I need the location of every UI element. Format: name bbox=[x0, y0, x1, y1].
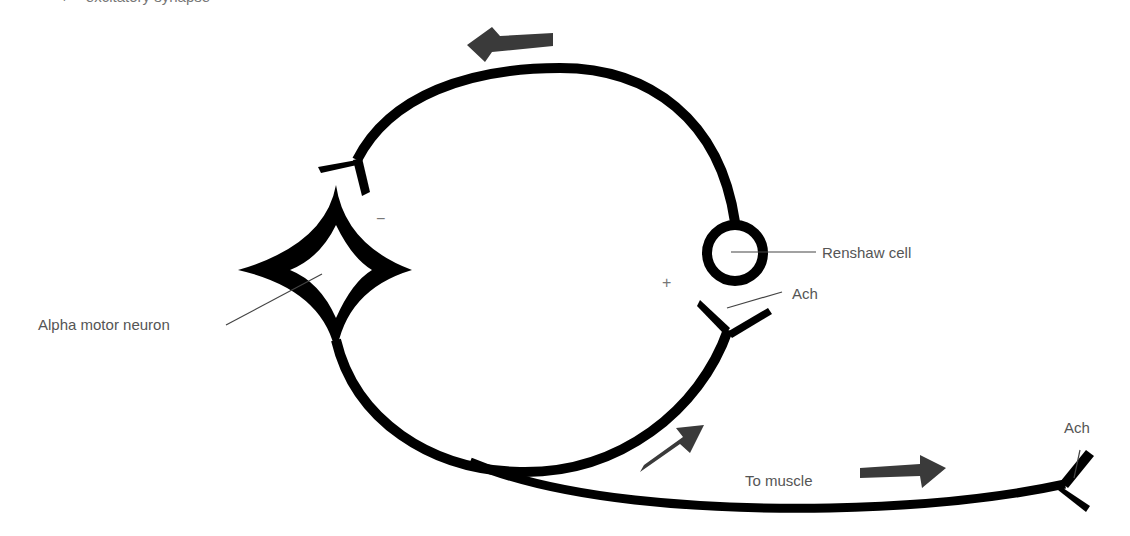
label-ach-muscle: Ach bbox=[1064, 419, 1090, 436]
recurrent-axon-top bbox=[357, 68, 735, 222]
label-alpha-motor-neuron: Alpha motor neuron bbox=[38, 316, 170, 333]
inhibitory-synapse-terminal bbox=[318, 158, 370, 196]
excitatory-plus-sign: + bbox=[662, 274, 671, 292]
leader-ach-renshaw bbox=[727, 292, 782, 308]
label-renshaw-cell: Renshaw cell bbox=[822, 244, 911, 261]
label-to-muscle: To muscle bbox=[745, 472, 813, 489]
muscle-synapse-terminal bbox=[1058, 450, 1094, 512]
arrow-top-left bbox=[467, 27, 553, 62]
label-ach-renshaw: Ach bbox=[792, 285, 818, 302]
renshaw-cell-body bbox=[707, 225, 763, 281]
alpha-motor-neuron-body bbox=[238, 185, 412, 355]
arrow-right-to-muscle bbox=[860, 455, 946, 488]
inhibitory-minus-sign: − bbox=[376, 210, 385, 228]
renshaw-circuit-diagram bbox=[0, 0, 1130, 536]
